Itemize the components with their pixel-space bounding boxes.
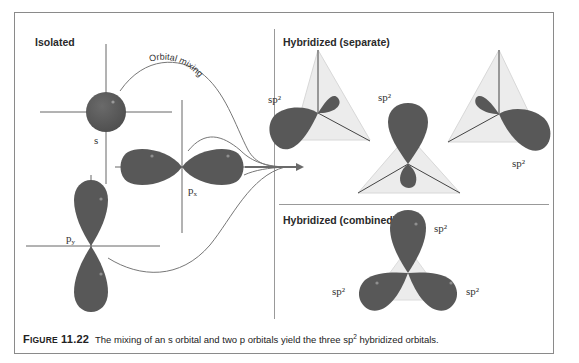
label-s: s <box>94 134 98 146</box>
sp2-orbitals-combined: sp² sp² sp² <box>332 210 480 311</box>
px-orbital: px <box>115 100 250 233</box>
sp2-orbital-separate-left: sp² <box>268 50 370 149</box>
label-px: px <box>188 184 198 198</box>
py-orbital: py <box>26 175 160 312</box>
label-sp2-combined-1: sp² <box>434 222 448 234</box>
label-sp2-separate-3: sp² <box>512 157 526 169</box>
orbital-diagram: s px py Orbital mixing <box>0 0 579 363</box>
label-sp2-combined-3: sp² <box>466 285 480 297</box>
label-py: py <box>66 232 76 246</box>
sp2-orbital-separate-middle: sp² <box>358 91 460 193</box>
label-sp2-separate-2: sp² <box>378 91 392 103</box>
sp2-orbital-separate-right: sp² <box>448 50 550 169</box>
label-sp2-separate-1: sp² <box>268 93 282 105</box>
label-sp2-combined-2: sp² <box>332 285 346 297</box>
orbital-mixing-label: Orbital mixing <box>148 52 205 79</box>
